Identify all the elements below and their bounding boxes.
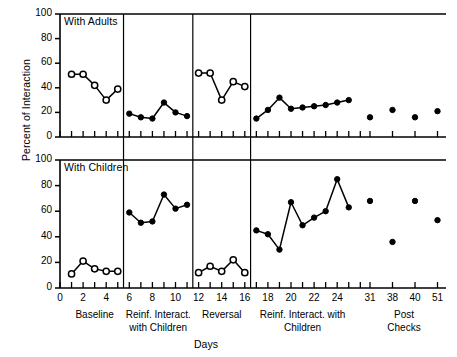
data-point-top-open	[230, 79, 236, 85]
x-tick-label-12: 12	[187, 292, 211, 303]
data-point-top-filled	[288, 106, 293, 111]
x-tick-label-40: 40	[403, 292, 427, 303]
data-point-top-filled	[277, 95, 282, 100]
data-point-top-filled	[161, 100, 166, 105]
x-tick-label-6: 6	[117, 292, 141, 303]
data-point-top-filled	[300, 105, 305, 110]
x-tick-label-4: 4	[94, 292, 118, 303]
phase-label-line: Post	[339, 309, 457, 322]
y-tick-label-top-80: 80	[26, 32, 52, 43]
x-tick-label-14: 14	[210, 292, 234, 303]
data-point-bottom-filled	[173, 206, 178, 211]
data-point-top-open	[92, 82, 98, 88]
chart-canvas	[0, 0, 457, 357]
data-point-bottom-filled	[138, 220, 143, 225]
x-tick-label-22: 22	[302, 292, 326, 303]
data-point-top-filled	[412, 115, 417, 120]
data-point-top-filled	[390, 107, 395, 112]
x-tick-label-24: 24	[325, 292, 349, 303]
data-point-top-filled	[127, 111, 132, 116]
x-tick-label-20: 20	[279, 292, 303, 303]
x-tick-label-38: 38	[381, 292, 405, 303]
y-tick-label-bottom-40: 40	[26, 230, 52, 241]
figure: Percent of Interaction With Adults With …	[0, 0, 457, 357]
y-tick-label-top-20: 20	[26, 105, 52, 116]
data-point-top-filled	[254, 116, 259, 121]
data-point-top-filled	[346, 97, 351, 102]
y-tick-label-top-40: 40	[26, 81, 52, 92]
phase-label-line: with Children	[93, 322, 223, 335]
data-point-top-filled	[435, 108, 440, 113]
data-point-top-open	[242, 83, 248, 89]
data-point-bottom-open	[242, 270, 248, 276]
data-point-bottom-open	[196, 270, 202, 276]
y-tick-label-bottom-100: 100	[26, 153, 52, 164]
data-point-bottom-filled	[288, 200, 293, 205]
data-point-bottom-open	[103, 268, 109, 274]
x-tick-label-2: 2	[71, 292, 95, 303]
y-tick-label-bottom-60: 60	[26, 204, 52, 215]
data-point-top-open	[219, 97, 225, 103]
phase-label-post-checks: PostChecks	[339, 309, 457, 334]
data-point-bottom-filled	[435, 217, 440, 222]
data-point-top-filled	[311, 104, 316, 109]
data-point-bottom-filled	[346, 205, 351, 210]
data-point-top-filled	[150, 116, 155, 121]
data-point-top-filled	[265, 107, 270, 112]
data-point-bottom-open	[68, 271, 74, 277]
x-tick-label-8: 8	[140, 292, 164, 303]
data-point-bottom-filled	[277, 247, 282, 252]
data-point-bottom-open	[80, 258, 86, 264]
x-tick-label-0: 0	[48, 292, 72, 303]
y-tick-label-top-100: 100	[26, 7, 52, 18]
x-tick-label-10: 10	[164, 292, 188, 303]
data-point-top-filled	[184, 113, 189, 118]
x-tick-label-16: 16	[233, 292, 257, 303]
data-point-bottom-filled	[150, 219, 155, 224]
data-point-bottom-filled	[300, 223, 305, 228]
data-point-bottom-filled	[323, 209, 328, 214]
series-line-bottom-reinf-interact-with-children-2	[256, 179, 348, 249]
data-point-top-filled	[323, 102, 328, 107]
data-point-bottom-filled	[184, 202, 189, 207]
data-point-bottom-filled	[254, 228, 259, 233]
data-point-bottom-filled	[311, 215, 316, 220]
data-point-top-filled	[335, 100, 340, 105]
data-point-top-open	[68, 71, 74, 77]
series-line-top-reversal	[199, 73, 245, 100]
data-point-bottom-open	[230, 257, 236, 263]
data-point-bottom-filled	[335, 177, 340, 182]
data-point-top-open	[103, 97, 109, 103]
data-point-bottom-filled	[161, 192, 166, 197]
data-point-bottom-filled	[265, 232, 270, 237]
y-tick-label-top-0: 0	[26, 130, 52, 141]
data-point-top-open	[196, 70, 202, 76]
data-point-bottom-filled	[390, 239, 395, 244]
data-point-bottom-filled	[367, 198, 372, 203]
data-point-top-filled	[367, 115, 372, 120]
x-tick-label-51: 51	[426, 292, 450, 303]
data-point-bottom-filled	[127, 210, 132, 215]
x-tick-label-18: 18	[256, 292, 280, 303]
y-tick-label-top-60: 60	[26, 56, 52, 67]
data-point-top-open	[115, 86, 121, 92]
data-point-bottom-open	[219, 268, 225, 274]
y-tick-label-bottom-0: 0	[26, 281, 52, 292]
y-tick-label-bottom-80: 80	[26, 179, 52, 190]
phase-label-line: Checks	[339, 322, 457, 335]
x-tick-label-31: 31	[358, 292, 382, 303]
data-point-top-open	[207, 70, 213, 76]
data-point-bottom-open	[115, 268, 121, 274]
y-tick-label-bottom-20: 20	[26, 255, 52, 266]
data-point-bottom-open	[92, 266, 98, 272]
data-point-top-open	[80, 71, 86, 77]
data-point-top-filled	[138, 115, 143, 120]
data-point-bottom-filled	[412, 198, 417, 203]
data-point-bottom-open	[207, 263, 213, 269]
data-point-top-filled	[173, 110, 178, 115]
